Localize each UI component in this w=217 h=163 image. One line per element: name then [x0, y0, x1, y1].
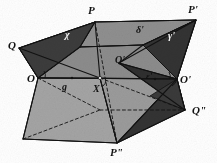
- geometric-figure: PP'Qχδ'γ'Q'OgXε'O'Q"P": [0, 0, 217, 163]
- vertex-label-Q-prime: Q': [115, 55, 125, 65]
- vertex-label-gamma-pr: γ': [168, 31, 175, 41]
- vertex-label-X: X: [93, 84, 100, 94]
- vertex-label-O-prime: O': [180, 74, 191, 85]
- vertex-label-chi: χ: [65, 30, 70, 40]
- vertex-label-Q-dprime: Q": [192, 105, 206, 116]
- vertex-label-g: g: [62, 82, 67, 92]
- vertex-label-O: O: [27, 73, 35, 84]
- vertex-label-Q: Q: [8, 40, 16, 51]
- vertex-label-P-dprime: P": [110, 147, 123, 158]
- vertex-label-eps-pr: ε': [146, 72, 152, 81]
- vertex-label-delta-pr: δ': [136, 25, 144, 35]
- vertex-label-P: P: [88, 5, 95, 16]
- vertex-label-P-prime: P': [188, 4, 198, 15]
